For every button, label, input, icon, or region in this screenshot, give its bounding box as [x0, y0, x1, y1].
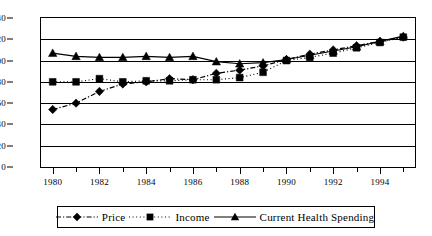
y-axis-tick-mark [7, 18, 13, 19]
diamond-marker-icon [55, 210, 99, 224]
data-point-diamond-marker-icon [48, 105, 56, 113]
y-axis-tick-label: 140 [0, 14, 6, 23]
y-axis-tick-label: 0 [1, 163, 6, 172]
x-axis-tick-label: 1980 [43, 177, 62, 187]
y-axis-tick-mark [7, 167, 13, 168]
x-axis-minor-tick-mark [170, 168, 171, 172]
y-axis-tick-label: 40 [0, 120, 6, 129]
y-axis: 020406080100120140 [0, 0, 40, 236]
x-axis-tick-label: 1994 [371, 177, 390, 187]
x-axis-tick-mark [380, 168, 381, 174]
x-axis-tick-mark [286, 168, 287, 174]
series-line [53, 37, 404, 82]
y-axis-tick-label: 80 [0, 77, 6, 86]
x-axis-tick-label: 1990 [277, 177, 296, 187]
legend-label: Income [172, 212, 212, 223]
legend-item-price[interactable]: Price [55, 207, 129, 227]
x-axis-tick-mark [193, 168, 194, 174]
data-point-triangle-marker-icon [48, 49, 56, 57]
x-axis-minor-tick-mark [263, 168, 264, 172]
x-axis-tick-mark [99, 168, 100, 174]
legend-item-income[interactable]: Income [128, 207, 212, 227]
x-axis-tick-mark [146, 168, 147, 174]
y-axis-tick-label: 60 [0, 99, 6, 108]
data-point-square-marker-icon [73, 78, 80, 85]
x-axis-tick-mark [53, 168, 54, 174]
data-point-diamond-marker-icon [95, 87, 103, 95]
x-axis-minor-tick-mark [403, 168, 404, 172]
series-line [53, 36, 404, 64]
x-axis-minor-tick-mark [76, 168, 77, 172]
y-axis-tick-mark [7, 60, 13, 61]
x-axis-tick-label: 1988 [230, 177, 249, 187]
legend-item-current-health-spending[interactable]: Current Health Spending [213, 207, 378, 227]
legend-label: Price [99, 212, 129, 223]
x-axis-minor-tick-mark [357, 168, 358, 172]
x-axis-tick-mark [333, 168, 334, 174]
plot-area [40, 17, 416, 168]
data-point-square-marker-icon [236, 74, 243, 81]
y-axis-tick-label: 20 [0, 141, 6, 150]
y-axis-tick-mark [7, 124, 13, 125]
data-point-square-marker-icon [260, 69, 267, 76]
data-point-square-marker-icon [49, 78, 56, 85]
data-point-square-marker-icon [143, 77, 150, 84]
x-axis-minor-tick-mark [216, 168, 217, 172]
y-axis-tick-mark [7, 39, 13, 40]
chart-figure: 020406080100120140 198019821984198619881… [0, 0, 432, 236]
x-axis-tick-label: 1992 [324, 177, 343, 187]
x-axis-tick-mark [240, 168, 241, 174]
x-axis-tick-label: 1986 [184, 177, 203, 187]
y-axis-tick-mark [7, 145, 13, 146]
chart-legend: PriceIncomeCurrent Health Spending [57, 206, 375, 228]
x-axis-minor-tick-mark [310, 168, 311, 172]
y-axis-tick-mark [7, 81, 13, 82]
series-layer [41, 18, 415, 167]
data-point-square-marker-icon [166, 77, 173, 84]
x-axis-minor-tick-mark [123, 168, 124, 172]
x-axis-tick-label: 1982 [90, 177, 109, 187]
y-axis-tick-label: 100 [0, 56, 6, 65]
data-point-square-marker-icon [96, 75, 103, 82]
y-axis-tick-label: 120 [0, 35, 6, 44]
data-point-diamond-marker-icon [72, 99, 80, 107]
x-axis: 19801982198419861988199019921994 [40, 168, 416, 208]
square-marker-icon [128, 210, 172, 224]
x-axis-tick-label: 1984 [137, 177, 156, 187]
y-axis-tick-mark [7, 103, 13, 104]
series-current-health-spending [48, 32, 407, 67]
data-point-square-marker-icon [119, 78, 126, 85]
data-point-square-marker-icon [213, 76, 220, 83]
legend-label: Current Health Spending [257, 212, 378, 223]
data-point-square-marker-icon [190, 76, 197, 83]
triangle-marker-icon [213, 210, 257, 224]
